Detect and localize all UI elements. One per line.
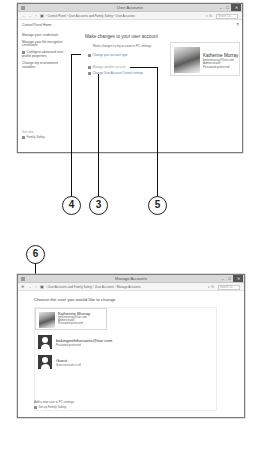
- up-button[interactable]: ↑: [35, 12, 37, 20]
- link-label: Set up Family Safety: [39, 405, 67, 409]
- account-status: Password protected: [58, 322, 83, 325]
- manage-another-account-link[interactable]: Manage another account: [88, 65, 126, 69]
- sidebar: Control Panel Home Manage your credentia…: [22, 24, 70, 73]
- account-status: Guest account is off: [56, 363, 81, 367]
- sidebar-item-label: Configure advanced user profile properti…: [22, 51, 63, 59]
- page-title: Choose the user you would like to change: [34, 297, 116, 302]
- sidebar-environment-variables[interactable]: Change my environment variables: [22, 62, 70, 70]
- callout-5-leader: [157, 67, 158, 198]
- breadcrumb-user-accounts-family-safety[interactable]: User Accounts and Family Safety: [48, 285, 92, 289]
- breadcrumb-separator: ›: [93, 285, 94, 289]
- refresh-icon[interactable]: ↻: [209, 12, 212, 20]
- shield-icon: [88, 66, 91, 69]
- callout-5-leader: [130, 67, 158, 68]
- sidebar-manage-credentials[interactable]: Manage your credentials: [22, 34, 70, 38]
- link-label: Change User Account Control settings: [93, 71, 144, 75]
- callout-3: 3: [89, 196, 108, 215]
- back-button[interactable]: ←: [22, 12, 26, 20]
- close-button[interactable]: ✕: [233, 275, 243, 282]
- callout-5: 5: [148, 196, 167, 215]
- forward-button[interactable]: →: [28, 12, 32, 20]
- generic-user-icon: [38, 335, 52, 349]
- close-button[interactable]: ✕: [231, 4, 241, 11]
- breadcrumb-user-accounts[interactable]: User Accounts: [95, 285, 114, 289]
- breadcrumb: › User Accounts and Family Safety › User…: [46, 283, 141, 291]
- account-photo[interactable]: [174, 47, 200, 73]
- generic-user-icon: [38, 355, 52, 369]
- see-also-family-safety[interactable]: Family Safety: [22, 135, 45, 139]
- back-button[interactable]: ⊖: [21, 283, 24, 291]
- control-panel-icon: ▣: [40, 12, 44, 20]
- sidebar-file-encryption[interactable]: Manage your file encryption certificates: [22, 41, 70, 49]
- account-status: Password protected: [203, 66, 230, 69]
- manage-accounts-window: Manage Accounts – □ ✕ ⊖ → ↑ ▣ › User Acc…: [17, 274, 245, 418]
- callout-4-leader: [71, 54, 72, 197]
- window-title: User Accounts: [18, 5, 242, 10]
- up-button[interactable]: ↑: [35, 283, 37, 291]
- account-photo: [39, 312, 55, 328]
- account-card: Katherine Murray kmlistmurray@live.com A…: [170, 42, 240, 76]
- breadcrumb-separator: ›: [114, 14, 115, 18]
- search-input[interactable]: Search Co...: [218, 285, 240, 290]
- family-safety-icon: [22, 136, 25, 139]
- add-user-link[interactable]: Add a new user in PC settings: [34, 400, 74, 404]
- window-title: Manage Accounts: [18, 276, 244, 281]
- shield-icon: [88, 72, 91, 75]
- callout-4-leader: [71, 54, 81, 55]
- account-tile-bakingwiththesaints[interactable]: bakingwiththesaints@live.com Password pr…: [38, 335, 128, 351]
- pc-settings-link[interactable]: Make changes to my account in PC setting…: [93, 44, 151, 48]
- account-status: Password protected: [56, 343, 81, 347]
- title-bar[interactable]: Manage Accounts – □ ✕: [18, 275, 244, 283]
- forward-button[interactable]: →: [28, 283, 32, 291]
- address-dropdown-icon[interactable]: ▾: [208, 283, 210, 291]
- family-safety-label: Family Safety: [27, 135, 45, 139]
- address-bar: ⊖ → ↑ ▣ › User Accounts and Family Safet…: [18, 283, 244, 291]
- callout-3-leader: [98, 74, 99, 198]
- minimize-button[interactable]: –: [219, 275, 226, 282]
- callout-4: 4: [62, 196, 81, 215]
- breadcrumb-control-panel[interactable]: Control Panel: [48, 14, 66, 18]
- maximize-button[interactable]: □: [226, 275, 233, 282]
- minimize-button[interactable]: –: [217, 4, 224, 11]
- callout-6: 6: [26, 245, 45, 264]
- breadcrumb-separator: ›: [46, 14, 47, 18]
- refresh-icon[interactable]: ↻: [211, 283, 214, 291]
- uac-settings-link[interactable]: Change User Account Control settings: [88, 71, 143, 75]
- breadcrumb-separator: ›: [67, 14, 68, 18]
- shield-icon: [88, 54, 91, 57]
- sidebar-advanced-profile[interactable]: Configure advanced user profile properti…: [22, 51, 70, 59]
- account-tile-guest[interactable]: Guest Guest account is off: [38, 355, 108, 371]
- title-bar[interactable]: User Accounts – □ ✕: [18, 4, 242, 12]
- link-label: Change your account type: [93, 53, 128, 57]
- breadcrumb-manage-accounts[interactable]: Manage Accounts: [117, 285, 141, 289]
- account-tile-katherine[interactable]: Katherine Murray kmlistmurray@live.com A…: [35, 308, 107, 330]
- see-also-label: See also: [22, 130, 34, 134]
- breadcrumb-user-accounts-family-safety[interactable]: User Accounts and Family Safety: [69, 14, 113, 18]
- family-safety-link[interactable]: Set up Family Safety: [34, 405, 66, 409]
- search-input[interactable]: Search Co...: [216, 14, 238, 19]
- page-title: Make changes to your user account: [85, 34, 158, 39]
- link-label: Manage another account: [93, 65, 126, 69]
- address-bar: ← → ↑ ▣ › Control Panel › User Accounts …: [18, 12, 242, 20]
- maximize-button[interactable]: □: [224, 4, 231, 11]
- shield-icon: [34, 406, 37, 409]
- help-icon[interactable]: ?: [237, 23, 239, 27]
- user-accounts-window: User Accounts – □ ✕ ← → ↑ ▣ › Control Pa…: [17, 3, 243, 153]
- change-account-type-link[interactable]: Change your account type: [88, 53, 128, 57]
- breadcrumb: › Control Panel › User Accounts and Fami…: [46, 12, 135, 20]
- breadcrumb-separator: ›: [46, 285, 47, 289]
- sidebar-control-panel-home[interactable]: Control Panel Home: [22, 24, 70, 28]
- breadcrumb-user-accounts[interactable]: User Accounts: [116, 14, 135, 18]
- address-dropdown-icon[interactable]: ▾: [206, 12, 208, 20]
- control-panel-icon: ▣: [40, 283, 44, 291]
- breadcrumb-separator: ›: [115, 285, 116, 289]
